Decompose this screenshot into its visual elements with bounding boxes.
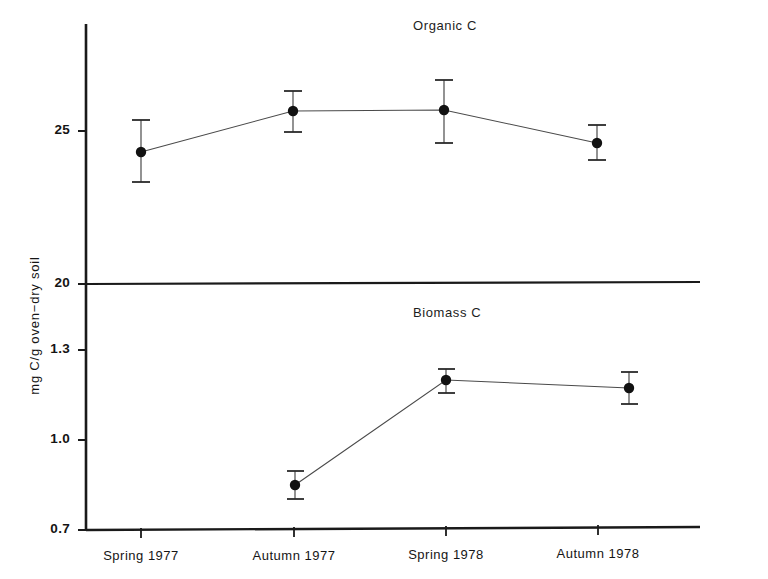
organic-point-spring-1978: [439, 105, 449, 115]
organic-panel-title: Organic C: [413, 18, 477, 33]
y-axis-title: mg C/g oven−dry soil: [27, 226, 42, 426]
biomass-series: [287, 369, 638, 499]
organic-point-autumn-1978: [592, 138, 602, 148]
chart-canvas: [0, 0, 768, 579]
x-tick-label-autumn-1978: Autumn 1978: [557, 546, 640, 561]
organic-series: [132, 80, 606, 182]
y-tick-label-25: 25: [32, 122, 70, 137]
x-tick-label-spring-1978: Spring 1978: [408, 547, 484, 562]
organic-point-spring-1977: [136, 147, 146, 157]
organic-point-autumn-1977: [288, 106, 298, 116]
biomass-panel-title: Biomass C: [413, 305, 481, 320]
organic-line: [141, 110, 597, 152]
biomass-point-autumn-1977: [290, 480, 300, 490]
x-tick-label-autumn-1977: Autumn 1977: [253, 548, 336, 563]
figure-container: Organic C Biomass C 25 20 1.3 1.0 0.7 Sp…: [0, 0, 768, 579]
biomass-line: [295, 380, 629, 485]
y-tick-label-0-7: 0.7: [24, 521, 70, 536]
axis-lines: [86, 24, 700, 531]
y-tick-label-1-0: 1.0: [24, 431, 70, 446]
biomass-point-spring-1978: [441, 375, 451, 385]
biomass-point-autumn-1978: [624, 383, 634, 393]
x-tick-label-spring-1977: Spring 1977: [103, 548, 179, 563]
